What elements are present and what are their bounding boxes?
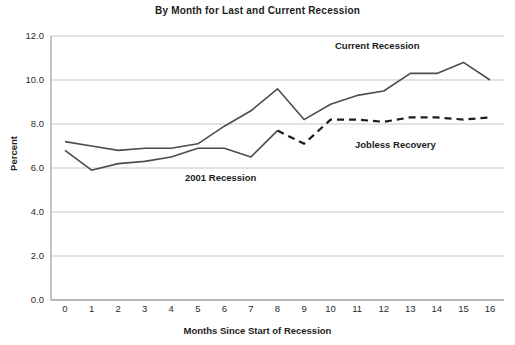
plot-area <box>0 0 515 345</box>
gridlines <box>51 36 504 300</box>
annotation-2001-recession: 2001 Recession <box>185 172 256 183</box>
series-line-1 <box>65 131 278 171</box>
series-line-0 <box>65 62 490 150</box>
data-series-layer <box>65 62 490 170</box>
annotation-current-recession: Current Recession <box>335 40 419 51</box>
annotation-jobless-recovery: Jobless Recovery <box>355 139 436 150</box>
recession-line-chart: By Month for Last and Current Recession … <box>0 0 515 345</box>
